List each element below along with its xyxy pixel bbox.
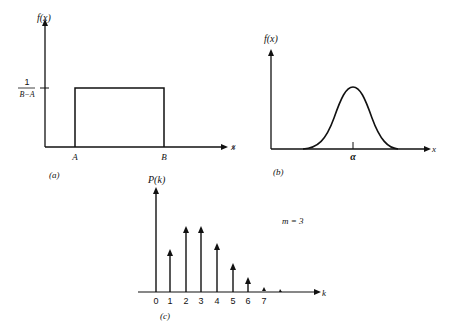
tick-labels: 0 1 2 3 4 5 6 7: [153, 296, 266, 306]
tick-label: 1: [167, 296, 172, 306]
tick-label: 5: [230, 296, 235, 306]
panel-b: f(x) α x x (b): [231, 33, 436, 177]
height-label-num: 1: [24, 77, 29, 87]
tick-label-B: B: [161, 152, 167, 162]
uniform-density: [75, 88, 164, 147]
tick-label: 3: [198, 296, 203, 306]
y-axis-label: f(x): [37, 12, 52, 24]
y-axis-label: f(x): [264, 33, 279, 45]
tick-label: 4: [214, 296, 219, 306]
tick-label: 7: [261, 296, 266, 306]
parameter-label: m = 3: [282, 216, 304, 226]
stray-x-label: x: [231, 142, 236, 151]
impulse-k8: [279, 289, 282, 292]
height-label-den: B−A: [19, 90, 34, 99]
panel-caption: (a): [49, 170, 60, 180]
x-axis-label: k: [322, 288, 327, 298]
panel-a: f(x) 1 B−A A B x (a): [18, 12, 235, 180]
figure: f(x) 1 B−A A B x (a) f(x) α x x (b) 0: [0, 0, 451, 334]
panel-caption: (b): [273, 167, 284, 177]
y-axis-label: P(k): [147, 174, 166, 186]
tick-label: 0: [153, 296, 158, 306]
panel-caption: (c): [160, 311, 170, 321]
tick-label: 2: [183, 296, 188, 306]
tick-label-A: A: [71, 152, 78, 162]
tick-label: 6: [245, 296, 250, 306]
x-axis-label: x: [431, 144, 436, 154]
impulse-k7: [262, 287, 266, 291]
panel-c: 0 1 2 3 4 5 6 7 P(k) m = 3 k (c): [138, 174, 327, 321]
bell-curve: [303, 87, 398, 149]
tick-label-alpha: α: [350, 151, 356, 162]
